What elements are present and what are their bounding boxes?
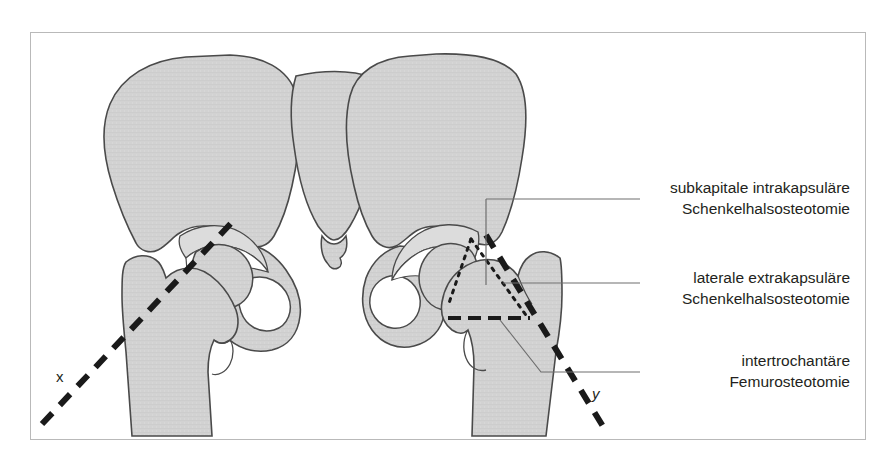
label-line-1: laterale extrakapsuläre: [682, 268, 850, 289]
right-ilium: [347, 54, 526, 248]
right-proximal-femur: [441, 252, 562, 436]
label-laterale-extrakapsulaere: laterale extrakapsuläre Schenkelhalsoste…: [682, 268, 850, 309]
figure-canvas: subkapitale intrakapsuläre Schenkelhalso…: [0, 0, 893, 463]
label-line-1: subkapitale intrakapsuläre: [670, 178, 850, 199]
pelvis-illustration: [0, 0, 893, 463]
label-subkapitale-intrakapsulaere: subkapitale intrakapsuläre Schenkelhalso…: [670, 178, 850, 219]
axis-marker-x: x: [56, 368, 64, 385]
label-line-2: Schenkelhalsosteotomie: [682, 289, 850, 310]
coccyx: [321, 236, 347, 269]
label-line-2: Femurosteotomie: [729, 372, 850, 393]
label-line-1: intertrochantäre: [729, 351, 850, 372]
label-intertrochantaere: intertrochantäre Femurosteotomie: [729, 351, 850, 392]
left-ilium: [104, 55, 299, 252]
axis-marker-y: y: [592, 385, 600, 402]
right-obturator-foramen: [370, 276, 421, 329]
label-line-2: Schenkelhalsosteotomie: [670, 199, 850, 220]
left-lesser-trochanter: [212, 340, 233, 375]
